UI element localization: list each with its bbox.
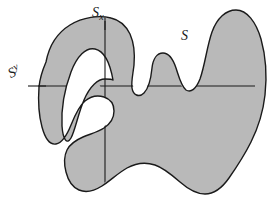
label-s-sub-x: Sx [92,4,104,22]
figure-container: Sx Sy S [0,0,279,213]
label-sx-subscript: x [99,11,103,22]
label-s-base: S [181,28,188,43]
region-diagram-svg [0,0,279,213]
label-sx-base: S [92,5,99,20]
shaded-region-group [39,10,266,194]
shaded-region-path [39,10,266,194]
label-s: S [181,27,188,43]
